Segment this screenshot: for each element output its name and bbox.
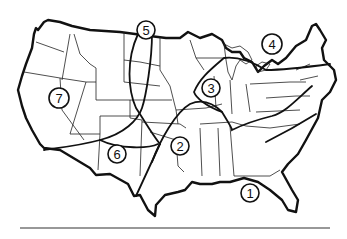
region-label-3: 3 <box>202 79 220 97</box>
region-label-6: 6 <box>108 145 126 163</box>
region-label-2: 2 <box>171 137 189 155</box>
svg-text:1: 1 <box>246 186 253 201</box>
svg-text:2: 2 <box>176 139 183 154</box>
svg-text:3: 3 <box>207 81 214 96</box>
svg-text:4: 4 <box>268 37 275 52</box>
svg-text:5: 5 <box>142 23 149 38</box>
svg-text:6: 6 <box>113 147 120 162</box>
region-label-1: 1 <box>241 184 259 202</box>
svg-text:7: 7 <box>55 91 62 106</box>
region-label-5: 5 <box>137 21 155 39</box>
us-region-map: 1 2 3 4 5 6 7 <box>0 0 347 239</box>
region-label-7: 7 <box>49 88 69 108</box>
region-label-4: 4 <box>262 34 282 54</box>
